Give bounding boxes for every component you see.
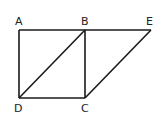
segment-bd (19, 30, 85, 98)
label-d: D (14, 102, 22, 115)
segment-ce (85, 30, 151, 98)
label-b: B (81, 15, 89, 28)
label-e: E (146, 15, 153, 28)
label-a: A (15, 15, 23, 28)
geometry-diagram: A B E D C (0, 0, 164, 120)
label-c: C (81, 102, 89, 115)
edges (19, 30, 151, 98)
